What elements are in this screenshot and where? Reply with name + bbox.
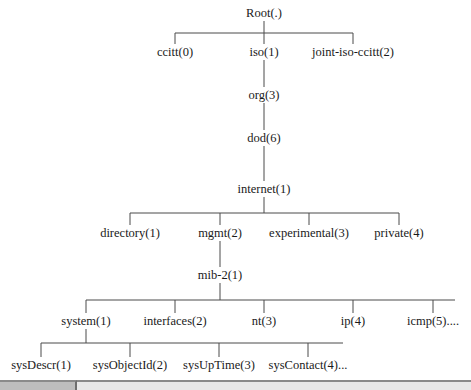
- node-org: org(3): [248, 88, 279, 103]
- node-icmp: icmp(5)....: [407, 314, 459, 329]
- node-internet: internet(1): [238, 182, 291, 197]
- node-ccitt: ccitt(0): [157, 45, 193, 60]
- node-sysobjectid: sysObjectId(2): [93, 358, 167, 373]
- bottom-left-tab: [0, 380, 77, 390]
- node-system: system(1): [61, 314, 110, 329]
- node-syscontact: sysContact(4)...: [269, 358, 348, 373]
- node-ip: ip(4): [341, 314, 365, 329]
- node-private: private(4): [374, 226, 423, 241]
- node-directory: directory(1): [100, 226, 160, 241]
- node-interfaces: interfaces(2): [143, 314, 206, 329]
- node-root: Root(.): [246, 6, 282, 21]
- node-iso: iso(1): [249, 45, 278, 60]
- node-dod: dod(6): [247, 131, 280, 146]
- node-mib-2: mib-2(1): [198, 268, 242, 283]
- node-mgmt: mgmt(2): [198, 226, 242, 241]
- node-sysdescr: sysDescr(1): [11, 358, 71, 373]
- node-experimental: experimental(3): [269, 226, 349, 241]
- node-joint-iso-ccitt: joint-iso-ccitt(2): [312, 45, 394, 60]
- node-nt: nt(3): [252, 314, 276, 329]
- node-sysuptime: sysUpTime(3): [183, 358, 255, 373]
